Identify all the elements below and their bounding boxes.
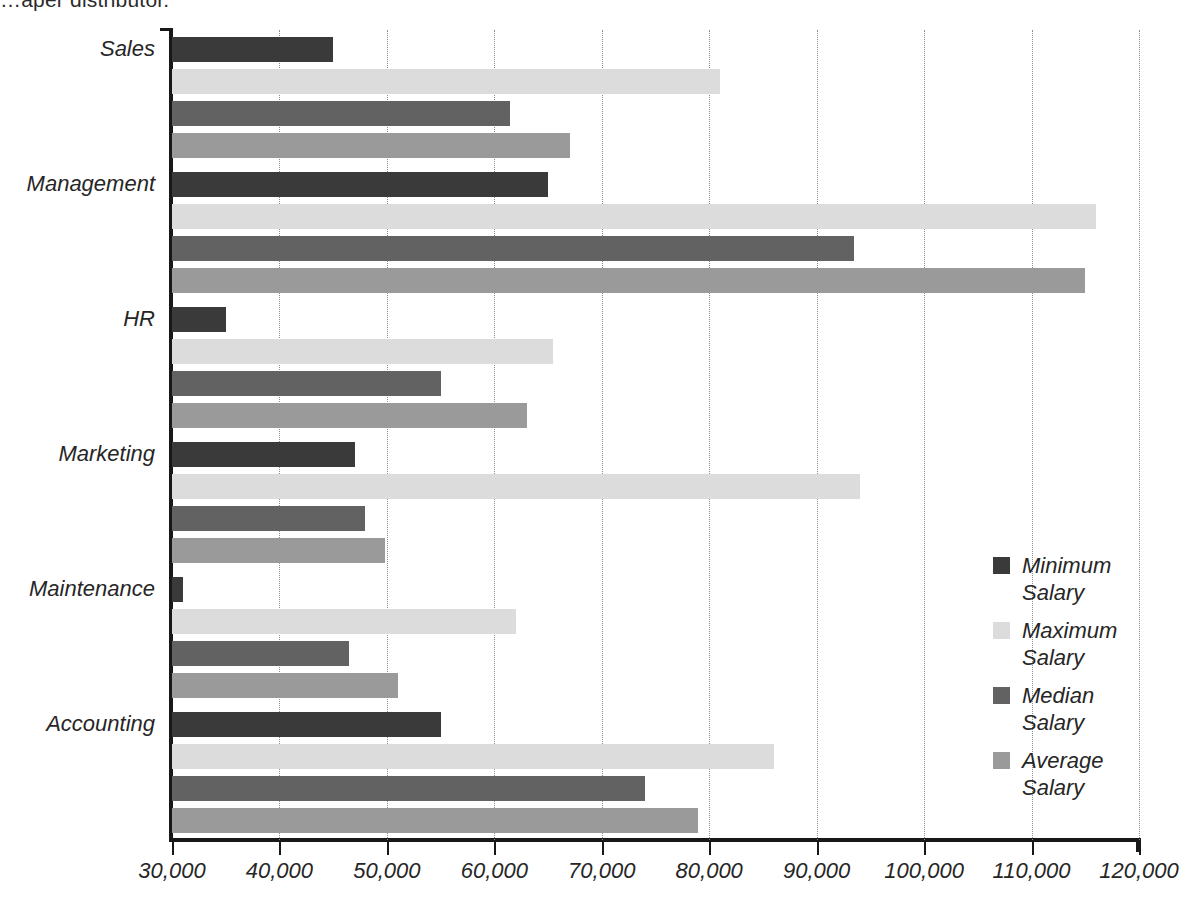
x-tick-label: 30,000 — [138, 858, 205, 884]
bar — [172, 474, 860, 499]
x-tick-label: 80,000 — [676, 858, 743, 884]
chart-legend: MinimumSalaryMaximumSalaryMedianSalaryAv… — [993, 552, 1178, 812]
x-tick-label: 50,000 — [353, 858, 420, 884]
category-label-sales: Sales — [0, 36, 155, 62]
gridline — [924, 30, 925, 840]
bar — [172, 133, 570, 158]
x-tick — [1139, 842, 1141, 855]
legend-item[interactable]: MedianSalary — [993, 682, 1178, 736]
bar — [172, 236, 854, 261]
x-tick — [494, 842, 496, 855]
legend-label: MaximumSalary — [1022, 617, 1142, 671]
legend-item[interactable]: MinimumSalary — [993, 552, 1178, 606]
legend-item[interactable]: AverageSalary — [993, 747, 1178, 801]
x-tick — [1032, 842, 1034, 855]
bar — [172, 577, 183, 602]
category-label-accounting: Accounting — [0, 711, 155, 737]
x-tick-label: 40,000 — [246, 858, 313, 884]
x-tick-label: 120,000 — [1099, 858, 1179, 884]
bar — [172, 172, 548, 197]
bar — [172, 37, 333, 62]
x-tick — [387, 842, 389, 855]
x-tick — [602, 842, 604, 855]
bar — [172, 776, 645, 801]
bar — [172, 641, 349, 666]
x-tick-label: 90,000 — [783, 858, 850, 884]
gridline — [602, 30, 603, 840]
bar — [172, 339, 553, 364]
legend-swatch-icon — [993, 622, 1010, 639]
legend-swatch-icon — [993, 557, 1010, 574]
bar — [172, 442, 355, 467]
x-tick-label: 70,000 — [568, 858, 635, 884]
bar — [172, 808, 698, 833]
bar — [172, 403, 527, 428]
x-tick — [279, 842, 281, 855]
x-tick — [172, 842, 174, 855]
category-label-maintenance: Maintenance — [0, 576, 155, 602]
x-tick — [924, 842, 926, 855]
bar — [172, 609, 516, 634]
bar — [172, 69, 720, 94]
bar — [172, 538, 385, 563]
bar — [172, 506, 365, 531]
legend-swatch-icon — [993, 752, 1010, 769]
category-label-management: Management — [0, 171, 155, 197]
category-label-hr: HR — [0, 306, 155, 332]
legend-item[interactable]: MaximumSalary — [993, 617, 1178, 671]
bar — [172, 307, 226, 332]
x-tick — [709, 842, 711, 855]
salary-bar-chart: 30,00040,00050,00060,00070,00080,00090,0… — [0, 0, 1184, 903]
legend-label: MinimumSalary — [1022, 552, 1142, 606]
x-tick-label: 60,000 — [461, 858, 528, 884]
bar — [172, 371, 441, 396]
bar — [172, 712, 441, 737]
bar — [172, 744, 774, 769]
gridline — [709, 30, 710, 840]
legend-label: MedianSalary — [1022, 682, 1142, 736]
bar — [172, 204, 1096, 229]
x-tick-label: 110,000 — [993, 858, 1071, 884]
category-label-marketing: Marketing — [0, 441, 155, 467]
bar — [172, 673, 398, 698]
legend-swatch-icon — [993, 687, 1010, 704]
x-tick-label: 100,000 — [884, 858, 964, 884]
x-tick — [817, 842, 819, 855]
gridline — [817, 30, 818, 840]
legend-label: AverageSalary — [1022, 747, 1142, 801]
bar — [172, 268, 1085, 293]
bar — [172, 101, 510, 126]
